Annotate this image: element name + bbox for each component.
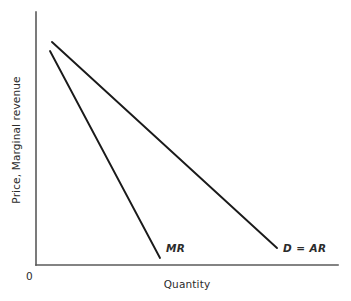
x-axis-title: Quantity bbox=[164, 278, 211, 290]
origin-label: 0 bbox=[26, 270, 33, 282]
y-axis-title: Price, Marginal revenue bbox=[10, 76, 22, 203]
chart-canvas: MR D = AR 0 Quantity Price, Marginal rev… bbox=[0, 0, 351, 301]
demand-average-revenue-curve bbox=[52, 42, 277, 248]
marginal-revenue-curve bbox=[50, 51, 160, 258]
economics-figure: MR D = AR 0 Quantity Price, Marginal rev… bbox=[0, 0, 351, 301]
marginal-revenue-curve-label: MR bbox=[166, 242, 185, 254]
demand-curve-label: D = AR bbox=[283, 242, 326, 254]
